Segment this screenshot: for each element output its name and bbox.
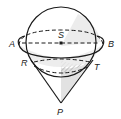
label-S: S [58,30,64,40]
label-P: P [57,107,63,117]
label-R: R [21,58,28,68]
label-T: T [94,62,101,72]
label-A: A [8,39,15,49]
sphere-cone-diagram: A B S R T P [0,0,121,119]
label-B: B [108,39,114,49]
center-point-S [60,42,63,45]
